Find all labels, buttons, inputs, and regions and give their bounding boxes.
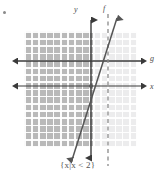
origin-point-marker xyxy=(89,84,93,88)
set-builder-notation-caption: {x|x < 2} xyxy=(60,160,95,170)
g-line-label: g xyxy=(150,55,154,63)
x-axis-label: x xyxy=(150,83,154,91)
axes-layer xyxy=(0,0,161,175)
f-line-label: f xyxy=(103,5,105,13)
f-slanted-line xyxy=(72,18,117,160)
graph-figure: g x y f {x|x < 2} xyxy=(0,0,161,175)
y-axis-label: y xyxy=(74,6,78,14)
